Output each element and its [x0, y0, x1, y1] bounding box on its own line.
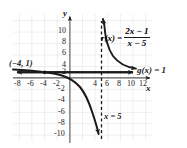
g-function-label: g(x) = 1	[137, 66, 166, 75]
y-tick-8: 8	[62, 38, 66, 46]
x-tick-8: 8	[117, 80, 121, 88]
x-tick-neg6: -6	[27, 80, 34, 88]
y-axis-label: y	[63, 9, 67, 18]
r-function-name: r(x)	[101, 33, 115, 43]
r-function-fraction: 2x − 1 x − 5	[124, 27, 149, 48]
y-tick-10: 10	[58, 27, 66, 35]
point-label: (−4, 1)	[9, 59, 33, 68]
x-tick-12: 12	[139, 80, 147, 88]
x-tick-neg4: -4	[40, 80, 47, 88]
fraction-numerator: 2x − 1	[124, 27, 149, 37]
rational-function-graph-figure: y x 10 8 6 4 2 -2 -4 -6 -8 -10 -8 -6 -4 …	[0, 0, 187, 148]
equals-sign: =	[117, 33, 122, 43]
x-tick-4: 4	[93, 80, 97, 88]
asymptote-label: x = 5	[104, 112, 122, 121]
fraction-denominator: x − 5	[126, 38, 147, 48]
x-tick-10: 10	[127, 80, 135, 88]
labeled-point-marker	[43, 70, 47, 74]
y-tick-neg4: -4	[58, 96, 65, 104]
r-function-label: r(x) = 2x − 1 x − 5	[101, 27, 150, 48]
y-tick-neg10: -10	[54, 130, 65, 138]
x-tick-neg8: -8	[14, 80, 21, 88]
y-tick-6: 6	[62, 49, 66, 57]
y-tick-neg6: -6	[58, 108, 65, 116]
x-tick-6: 6	[105, 80, 109, 88]
y-tick-neg8: -8	[58, 119, 65, 127]
x-tick-neg2: -2	[53, 80, 60, 88]
y-tick-2: 2	[62, 68, 66, 76]
